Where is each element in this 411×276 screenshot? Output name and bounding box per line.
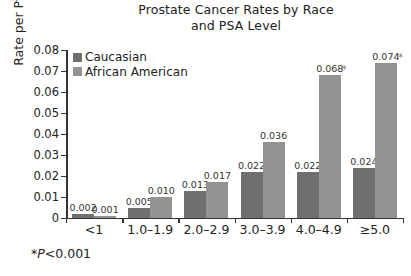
y-tick-label: 0.07 <box>33 64 59 78</box>
y-axis-title: Rate per Pt year <box>11 0 26 80</box>
legend-item-caucasian: Caucasian <box>73 50 188 65</box>
footnote-value: <0.001 <box>45 246 91 261</box>
bar: 0.017 <box>206 182 228 218</box>
x-axis-category-label: ≥5.0 <box>347 222 403 237</box>
chart-figure: Prostate Cancer Rates by Race and PSA Le… <box>0 0 411 276</box>
y-tick-label: 0 <box>52 211 59 225</box>
x-axis-category-label: <1 <box>66 222 122 237</box>
bar-value-label: 0.022 <box>238 160 265 171</box>
bar-value-label: 0.068 <box>316 63 343 74</box>
significance-asterisk: * <box>342 64 347 75</box>
x-axis-category-label: 4.0–4.9 <box>291 222 347 237</box>
significance-footnote: *P<0.001 <box>31 246 91 261</box>
bar-value-label: 0.074 <box>372 51 399 62</box>
bar-value-label: 0.022 <box>294 160 321 171</box>
bar: 0.022 <box>241 172 263 218</box>
y-tick-label: 0.05 <box>33 106 59 120</box>
y-tick-label: 0.03 <box>33 148 59 162</box>
legend-label-african-american: African American <box>85 65 188 80</box>
x-tick-mark <box>403 218 404 223</box>
x-axis-category-label: 3.0–3.9 <box>235 222 291 237</box>
legend-swatch-african-american <box>73 67 82 76</box>
bar-value-label: 0.005 <box>126 196 153 207</box>
significance-asterisk: * <box>398 52 403 63</box>
chart-title-line-1: Prostate Cancer Rates by Race <box>66 2 406 18</box>
chart-title-line-2: and PSA Level <box>66 18 406 34</box>
chart-title: Prostate Cancer Rates by Race and PSA Le… <box>66 2 406 34</box>
bar: 0.024 <box>353 168 375 218</box>
bar: 0.001 <box>94 216 116 218</box>
legend-swatch-caucasian <box>73 53 82 62</box>
bar: 0.074* <box>375 63 397 218</box>
legend-item-african-american: African American <box>73 65 188 80</box>
bar-value-label: 0.036 <box>260 130 287 141</box>
bar: 0.010 <box>150 197 172 218</box>
footnote-p-symbol: P <box>37 246 45 261</box>
bar: 0.036 <box>263 142 285 218</box>
legend-label-caucasian: Caucasian <box>85 50 147 65</box>
x-axis-category-label: 2.0–2.9 <box>178 222 234 237</box>
chart-legend: Caucasian African American <box>73 50 188 79</box>
bar-value-label: 0.024 <box>350 156 377 167</box>
y-tick-label: 0.06 <box>33 85 59 99</box>
bar: 0.005 <box>128 208 150 219</box>
bar: 0.068* <box>319 75 341 218</box>
bar: 0.013 <box>184 191 206 218</box>
y-tick-label: 0.01 <box>33 190 59 204</box>
x-axis-category-label: 1.0–1.9 <box>122 222 178 237</box>
y-tick-label: 0.02 <box>33 169 59 183</box>
bar-value-label: 0.017 <box>204 170 231 181</box>
y-tick-label: 0.08 <box>33 43 59 57</box>
bar-value-label: 0.001 <box>91 204 118 215</box>
bar: 0.022 <box>297 172 319 218</box>
bar-value-label: 0.010 <box>148 185 175 196</box>
y-tick-label: 0.04 <box>33 127 59 141</box>
